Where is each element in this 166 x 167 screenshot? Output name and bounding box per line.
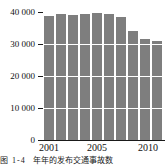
bar-2004 [80, 14, 90, 140]
bar-2002 [56, 14, 66, 140]
bar-2001 [44, 16, 54, 140]
bar-2007 [116, 17, 126, 140]
figure-caption: 图 1-4年年的发布交通事故数 [0, 155, 166, 167]
y-tick-label-10000: 10 000 [10, 104, 35, 113]
y-tick-label-40000: 40 000 [10, 8, 35, 17]
bar-2008 [128, 31, 138, 140]
figure-caption-text: 年年的发布交通事故数 [33, 155, 113, 166]
bar-2006 [104, 14, 114, 140]
bar-chart: 40 000 30 000 20 000 10 000 0 2001 2005 … [0, 0, 166, 152]
gridline-20000 [43, 76, 163, 77]
y-tick-label-30000: 30 000 [10, 40, 35, 49]
gridline-10000 [43, 108, 163, 109]
gridline-30000 [43, 44, 163, 45]
bar-2010 [152, 41, 162, 140]
x-axis-line [39, 140, 165, 141]
bar-2003 [68, 15, 78, 140]
x-tick-label-2005: 2005 [82, 142, 112, 153]
figure-container: 40 000 30 000 20 000 10 000 0 2001 2005 … [0, 0, 166, 167]
bar-2009 [140, 39, 150, 140]
x-tick-label-2010: 2010 [133, 142, 163, 153]
figure-caption-number: 图 1-4 [0, 155, 26, 166]
plot-area [43, 12, 163, 140]
x-tick-label-2001: 2001 [34, 142, 64, 153]
y-tick-label-20000: 20 000 [10, 72, 35, 81]
